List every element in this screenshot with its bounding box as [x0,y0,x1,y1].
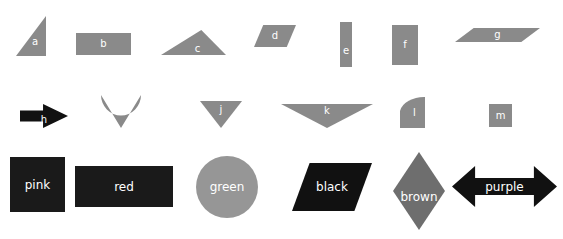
shape-red[interactable]: red [75,166,173,207]
shape-l[interactable]: l [400,97,425,128]
shape-black[interactable]: black [292,163,372,211]
shape-purple-label: purple [485,181,524,193]
shape-c-label: c [195,44,201,54]
shape-black-label: black [316,181,348,193]
shape-b[interactable]: b [76,33,131,55]
shape-j[interactable]: j [200,101,242,128]
shape-k-label-wrap: k [281,104,373,128]
shape-green[interactable]: green [196,156,258,218]
shape-pink-label-wrap: pink [10,157,65,212]
shape-purple[interactable]: purple [452,166,557,207]
shape-pink-label: pink [25,179,51,191]
shape-d[interactable]: d [254,25,296,47]
shape-brown-label-wrap: brown [393,152,445,230]
shape-g-label: g [494,30,500,40]
shape-i-label-wrap: i [101,95,141,128]
shape-f-label: f [403,40,407,50]
shape-e[interactable]: e [340,22,352,67]
shape-c[interactable]: c [161,30,226,55]
shape-m[interactable]: m [489,104,512,127]
shape-g-label-wrap: g [455,28,540,42]
shape-j-label-wrap: j [200,101,242,128]
shape-brown-label: brown [400,191,437,203]
shape-b-label-wrap: b [76,33,131,55]
shape-red-label-wrap: red [75,166,173,207]
shape-h[interactable]: h [20,104,68,128]
shape-pink[interactable]: pink [10,157,65,212]
shape-h-label-wrap: h [20,104,68,128]
shape-g[interactable]: g [455,28,540,42]
shape-a[interactable]: a [16,16,46,56]
shape-d-label: d [272,31,278,41]
shape-f[interactable]: f [392,25,418,65]
shape-purple-label-wrap: purple [452,166,557,207]
shape-m-label: m [496,111,506,121]
shape-brown[interactable]: brown [393,152,445,230]
shape-c-label-wrap: c [161,30,226,55]
shape-j-label: j [220,105,223,115]
shape-h-label: h [41,115,47,125]
shape-black-label-wrap: black [292,163,372,211]
shape-a-label-wrap: a [16,16,46,56]
shape-k-label: k [324,106,330,116]
shape-red-label: red [114,181,134,193]
shape-f-label-wrap: f [392,25,418,65]
shape-green-label-wrap: green [196,156,258,218]
shape-b-label: b [100,39,106,49]
shape-green-label: green [210,181,245,193]
shape-k[interactable]: k [281,104,373,128]
shape-i[interactable]: i [101,95,141,128]
shape-d-label-wrap: d [254,25,296,47]
shape-l-label: l [413,108,416,118]
shape-l-label-wrap: l [400,97,425,128]
shape-e-label-wrap: e [340,22,352,67]
shape-e-label: e [343,46,349,56]
shape-a-label: a [32,37,38,47]
shape-m-label-wrap: m [489,104,512,127]
shape-i-label: i [120,105,123,115]
shapes-worksheet: a b c d e f g [0,0,563,239]
